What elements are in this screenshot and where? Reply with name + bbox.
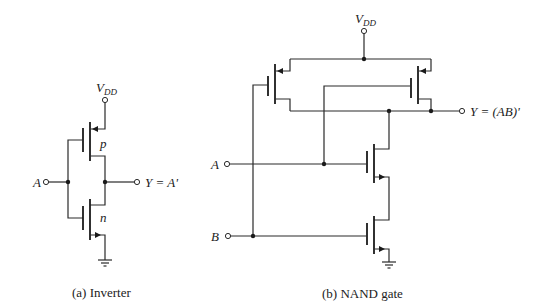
inverter-circuit: VDD p n A Y = A' — [32, 80, 178, 300]
nand-input-a-label: A — [210, 157, 219, 172]
inverter-output-label: Y = A' — [145, 175, 178, 190]
nmos-label: n — [100, 210, 107, 225]
nand-ground-icon — [382, 262, 396, 268]
inverter-gate-wire — [68, 140, 83, 218]
nand-circuit: VDD Y = (AB)' — [210, 11, 520, 301]
nand-output-junction-pmos — [429, 109, 433, 113]
inverter-vdd-terminal — [102, 97, 107, 102]
inverter-input-terminal — [43, 179, 48, 184]
inverter-input-junction — [66, 180, 70, 184]
nand-output-terminal — [459, 108, 464, 113]
inverter-ground-icon — [98, 260, 112, 266]
nand-vdd-label: VDD — [355, 11, 376, 28]
nand-caption: (b) NAND gate — [322, 286, 403, 301]
nmos-b-source-wire — [374, 249, 389, 262]
pmos-source-arrow-icon — [92, 126, 98, 132]
pmos-a-source-arrow-icon — [420, 68, 426, 74]
nand-vdd-terminal — [361, 28, 366, 33]
inverter-source-wire — [90, 235, 105, 260]
nmos-b-source-arrow-icon — [379, 246, 385, 252]
nand-input-a-junction — [322, 162, 326, 166]
pmos-a-drain-wire — [418, 99, 431, 111]
inverter-output-junction — [103, 180, 107, 184]
pmos-b-drain-wire — [275, 99, 290, 111]
nand-output-label: Y = (AB)' — [470, 104, 520, 119]
nand-input-a-terminal — [224, 161, 229, 166]
inverter-input-label: A — [32, 175, 41, 190]
inverter-vdd-label: VDD — [96, 80, 117, 97]
nmos-source-arrow-icon — [95, 232, 101, 238]
pmos-b-source-arrow-icon — [277, 68, 283, 74]
pmos-b-gate-wire — [253, 85, 268, 236]
nand-vdd-junction — [362, 57, 366, 61]
nmos-a-source-arrow-icon — [379, 174, 385, 180]
cmos-circuits-diagram: VDD p n A Y = A' — [0, 0, 534, 308]
nand-input-b-junction — [251, 234, 255, 238]
inverter-vdd-wire — [91, 103, 105, 129]
pmos-label: p — [99, 136, 107, 151]
inverter-output-terminal — [134, 179, 139, 184]
nmos-a-drain-wire — [374, 111, 389, 149]
nand-input-b-label: B — [211, 229, 219, 244]
inverter-drain-wire — [90, 156, 105, 205]
inverter-caption: (a) Inverter — [72, 285, 131, 300]
nmos-series-wire — [374, 177, 389, 220]
nand-input-b-terminal — [225, 233, 230, 238]
